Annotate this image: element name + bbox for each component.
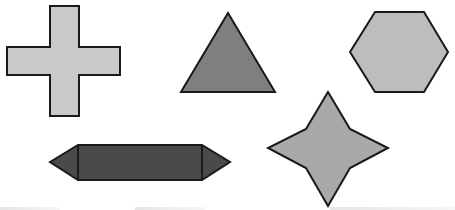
hexagon-shape bbox=[350, 12, 448, 92]
bottom-edge-artifact bbox=[0, 207, 60, 210]
cross-shape bbox=[7, 6, 120, 116]
shapes-canvas bbox=[0, 0, 455, 210]
bottom-edge-artifact bbox=[135, 207, 205, 210]
bottom-edge-artifact bbox=[330, 207, 455, 210]
triangle-shape bbox=[181, 13, 275, 92]
elongated-hexagon-shape bbox=[50, 145, 230, 180]
four-point-star-shape bbox=[268, 92, 388, 206]
